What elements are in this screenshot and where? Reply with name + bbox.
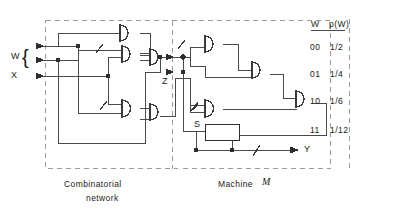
caption-machine-symbol: M: [262, 177, 270, 187]
wiring: [37, 33, 326, 150]
logic-circuit-figure: { W X Z S Y Combinatorial network Machin…: [0, 0, 404, 217]
table-cell-pw-3: 1/12: [330, 126, 349, 135]
and-gate-8: [252, 62, 260, 78]
table-cell-w-2: 10: [310, 97, 320, 106]
and-gate-4: [150, 49, 158, 65]
and-gate-1: [120, 25, 128, 41]
input-x-label: X: [11, 71, 17, 80]
and-gate-2: [122, 46, 130, 62]
slash-marker-3: [178, 40, 185, 49]
input-w-brace: {: [22, 47, 29, 67]
table-cell-w-0: 00: [310, 43, 320, 52]
signal-z-label: Z: [162, 77, 168, 86]
and-gate-7: [205, 100, 214, 117]
outer-dashed-box: [46, 21, 331, 169]
input-w-label: W: [11, 52, 20, 61]
and-gate-6: [205, 36, 213, 52]
circuit-svg: [0, 0, 404, 217]
caption-combinatorial-line2: network: [86, 194, 119, 203]
slash-marker-2: [100, 101, 107, 110]
table-header-w: W: [311, 20, 320, 29]
and-gate-3: [122, 100, 131, 117]
caption-combinatorial-line1: Combinatorial: [64, 180, 122, 189]
slash-marker-4: [190, 102, 198, 112]
table-cell-w-1: 01: [310, 70, 320, 79]
caption-machine: Machine: [218, 180, 253, 189]
register-s-label: S: [194, 120, 200, 129]
table-cell-w-3: 11: [310, 126, 320, 135]
slash-marker-1: [96, 44, 103, 53]
table-cell-pw-0: 1/2: [330, 43, 343, 52]
input-arrowheads: [36, 43, 299, 154]
output-y-label: Y: [304, 145, 310, 154]
and-gate-5: [150, 104, 158, 120]
table-cell-pw-1: 1/4: [330, 70, 343, 79]
state-register-box: [206, 125, 240, 141]
table-header-pw: p(W): [329, 20, 349, 29]
and-gate-9: [296, 91, 304, 107]
table-cell-pw-2: 1/6: [330, 97, 343, 106]
